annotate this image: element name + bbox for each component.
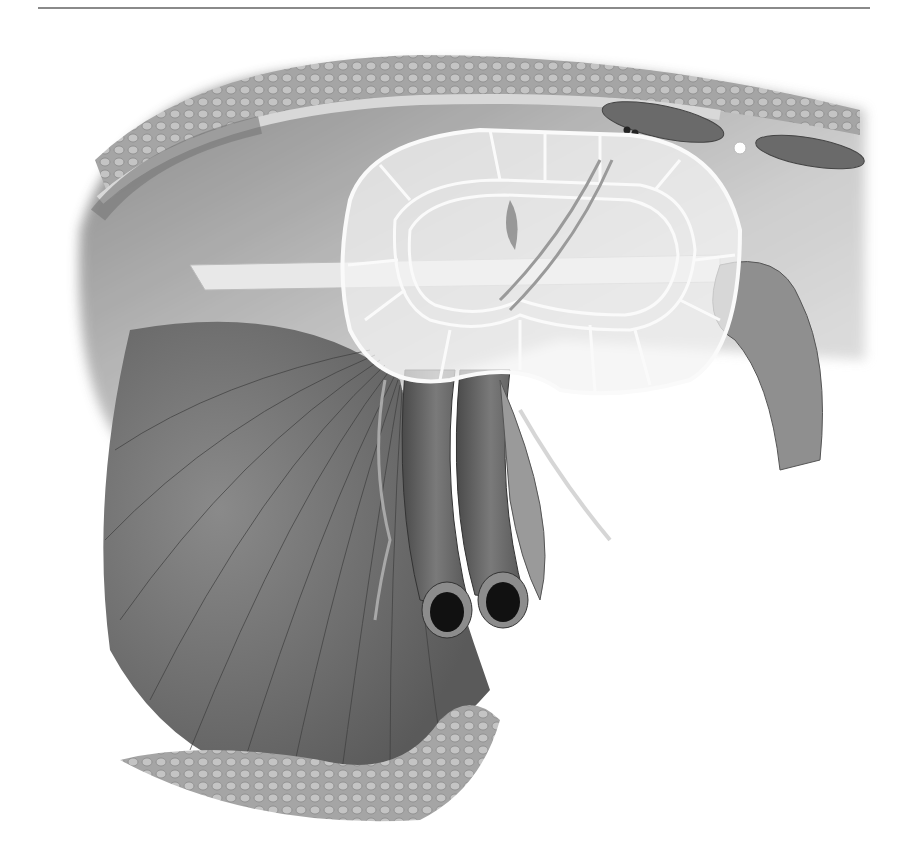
mesh-prosthesis (343, 130, 741, 393)
anatomical-illustration (0, 0, 912, 848)
artery-lumen (486, 582, 520, 622)
vein-lumen (430, 592, 464, 632)
